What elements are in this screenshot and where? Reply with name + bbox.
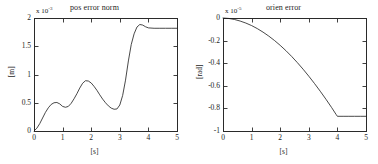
y-tick-label: 0	[0, 127, 31, 135]
x-tick-label: 5	[167, 134, 187, 142]
x-axis-label-left: [s]	[0, 148, 189, 156]
y-tick-label: -0.6	[189, 82, 220, 90]
y-tick-label: 0	[189, 14, 220, 22]
chart-panel-orien-error: orien error x 10-5 [rad] [s] 012345-1-0.…	[189, 0, 378, 164]
x-tick-label: 4	[327, 134, 347, 142]
x-tick-label: 0	[24, 134, 44, 142]
y-tick-label: 2	[0, 14, 31, 22]
x-tick-label: 3	[299, 134, 319, 142]
axes-frame	[35, 19, 178, 132]
data-series-line	[223, 18, 366, 116]
y-tick-label: 1	[0, 71, 31, 79]
x-tick-label: 5	[356, 134, 376, 142]
x-tick-label: 4	[138, 134, 158, 142]
chart-panel-pos-error-norm: pos error norm x 10-3 [m] [s] 01234500.5…	[0, 0, 189, 164]
y-tick-label: 0.5	[0, 99, 31, 107]
y-tick-label: -0.4	[189, 59, 220, 67]
y-tick-label: 1.5	[0, 42, 31, 50]
x-tick-label: 2	[81, 134, 101, 142]
x-tick-label: 1	[242, 134, 262, 142]
axes-frame	[224, 19, 367, 132]
x-tick-label: 2	[270, 134, 290, 142]
x-tick-label: 3	[110, 134, 130, 142]
y-tick-label: -0.8	[189, 104, 220, 112]
figure-container: pos error norm x 10-3 [m] [s] 01234500.5…	[0, 0, 378, 164]
x-tick-label: 0	[213, 134, 233, 142]
data-series-line	[34, 25, 177, 132]
y-tick-label: -0.2	[189, 37, 220, 45]
y-tick-label: -1	[189, 127, 220, 135]
x-axis-label-right: [s]	[189, 148, 378, 156]
x-tick-label: 1	[53, 134, 73, 142]
